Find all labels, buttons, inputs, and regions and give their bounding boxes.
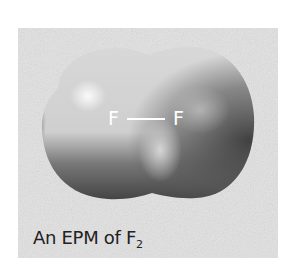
right-atom-label: F <box>173 107 184 129</box>
single-bond-line <box>127 118 165 120</box>
caption-subscript: 2 <box>136 238 143 251</box>
left-atom-label: F <box>108 107 119 129</box>
bond-label: F F <box>108 107 184 129</box>
caption-text: An EPM of F <box>33 227 136 248</box>
figure-caption: An EPM of F2 <box>33 227 143 248</box>
